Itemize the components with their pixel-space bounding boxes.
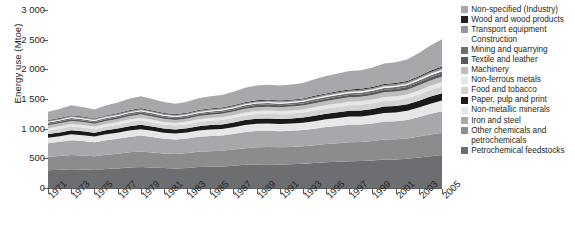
x-tick-mark: [442, 189, 443, 194]
legend-item-label: Non-metallic minerals: [471, 105, 550, 115]
legend-item-label: Machinery: [471, 65, 509, 75]
legend-item[interactable]: Iron and steel: [461, 116, 575, 126]
legend-swatch-icon: [461, 77, 468, 84]
legend-item[interactable]: Wood and wood products: [461, 15, 575, 25]
legend-swatch-icon: [461, 97, 468, 104]
legend-item[interactable]: Non-ferrous metals: [461, 75, 575, 85]
y-tick-mark: [43, 99, 48, 100]
x-tick-label: 2005: [440, 178, 463, 201]
x-tick-mark: [396, 189, 397, 194]
legend-item[interactable]: Non-metallic minerals: [461, 105, 575, 115]
x-tick-mark: [257, 189, 258, 194]
legend-swatch-icon: [461, 127, 468, 134]
x-tick-mark: [71, 189, 72, 194]
y-tick-label: 0: [1, 183, 45, 193]
legend: Non-specified (Industry)Wood and wood pr…: [461, 5, 575, 156]
legend-item[interactable]: Petrochemical feedstocks: [461, 146, 575, 156]
legend-item-label: Other chemicals and petrochemicals: [471, 126, 575, 146]
legend-item[interactable]: Mining and quarrying: [461, 45, 575, 55]
y-tick-mark: [43, 40, 48, 41]
legend-item[interactable]: Machinery: [461, 65, 575, 75]
x-tick-mark: [280, 189, 281, 194]
legend-item[interactable]: Construction: [461, 35, 575, 45]
x-tick-mark: [210, 189, 211, 194]
legend-item-label: Paper, pulp and print: [471, 95, 547, 105]
legend-swatch-icon: [461, 6, 468, 13]
y-tick-label: 1 000: [1, 124, 45, 134]
legend-swatch-icon: [461, 57, 468, 64]
y-tick-label: 2 000: [1, 64, 45, 74]
chart-figure: Energy use (Mtoe) 3 0002 5002 0001 5001 …: [0, 0, 575, 241]
legend-item-label: Mining and quarrying: [471, 45, 547, 55]
legend-swatch-icon: [461, 147, 468, 154]
legend-swatch-icon: [461, 16, 468, 23]
legend-swatch-icon: [461, 26, 468, 33]
legend-swatch-icon: [461, 37, 468, 44]
x-tick-mark: [326, 189, 327, 194]
y-tick-mark: [43, 10, 48, 11]
x-tick-mark: [187, 189, 188, 194]
legend-item[interactable]: Transport equipment: [461, 25, 575, 35]
y-axis-ticks: 3 0002 5002 0001 5001 0005000: [0, 0, 45, 241]
x-tick-mark: [48, 189, 49, 194]
x-tick-mark: [94, 189, 95, 194]
legend-item[interactable]: Textile and leather: [461, 55, 575, 65]
legend-item-label: Non-ferrous metals: [471, 75, 541, 85]
x-tick-mark: [164, 189, 165, 194]
y-tick-mark: [43, 158, 48, 159]
legend-swatch-icon: [461, 67, 468, 74]
x-tick-mark: [141, 189, 142, 194]
legend-item-label: Textile and leather: [471, 55, 537, 65]
legend-item[interactable]: Paper, pulp and print: [461, 95, 575, 105]
y-tick-label: 2 500: [1, 35, 45, 45]
legend-item-label: Petrochemical feedstocks: [471, 146, 564, 156]
legend-item-label: Wood and wood products: [471, 15, 564, 25]
legend-item-label: Transport equipment: [471, 25, 546, 35]
y-tick-label: 3 000: [1, 5, 45, 15]
y-tick-mark: [43, 69, 48, 70]
y-tick-label: 500: [1, 153, 45, 163]
y-tick-mark: [43, 129, 48, 130]
x-tick-mark: [419, 189, 420, 194]
x-tick-mark: [372, 189, 373, 194]
legend-swatch-icon: [461, 117, 468, 124]
legend-swatch-icon: [461, 47, 468, 54]
y-tick-label: 1 500: [1, 94, 45, 104]
x-tick-mark: [118, 189, 119, 194]
legend-item-label: Iron and steel: [471, 116, 521, 126]
legend-item-label: Food and tobacco: [471, 85, 537, 95]
legend-item[interactable]: Other chemicals and petrochemicals: [461, 126, 575, 146]
x-tick-mark: [303, 189, 304, 194]
legend-swatch-icon: [461, 107, 468, 114]
legend-swatch-icon: [461, 87, 468, 94]
legend-item[interactable]: Non-specified (Industry): [461, 5, 575, 15]
area-series-group: [48, 10, 442, 188]
stacked-area-plot: [48, 10, 442, 188]
legend-item-label: Non-specified (Industry): [471, 5, 558, 15]
x-tick-mark: [349, 189, 350, 194]
x-tick-mark: [233, 189, 234, 194]
legend-item-label: Construction: [471, 35, 517, 45]
legend-item[interactable]: Food and tobacco: [461, 85, 575, 95]
